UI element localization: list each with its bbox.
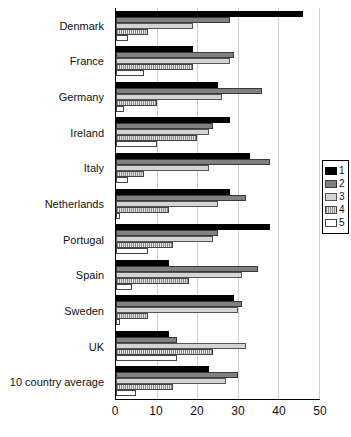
bar-row	[116, 284, 319, 290]
bar-group	[116, 8, 319, 44]
legend-item: 3	[325, 191, 346, 203]
bar-group	[116, 292, 319, 328]
bar-row	[116, 35, 319, 41]
category-axis: DenmarkFranceGermanyIrelandItalyNetherla…	[0, 8, 110, 400]
category-label: Netherlands	[0, 186, 110, 222]
legend-swatch-icon	[325, 180, 337, 188]
plot-area	[115, 8, 320, 400]
legend-swatch-icon	[325, 206, 337, 214]
gridline	[319, 8, 320, 399]
category-label: France	[0, 44, 110, 80]
legend-label: 2	[339, 179, 345, 189]
category-label: Ireland	[0, 115, 110, 151]
category-label: UK	[0, 329, 110, 365]
bar-group	[116, 79, 319, 115]
legend-swatch-icon	[325, 193, 337, 201]
legend-label: 4	[339, 205, 345, 215]
bar-group	[116, 257, 319, 293]
category-label: Germany	[0, 79, 110, 115]
chart-legend: 12345	[322, 160, 349, 234]
bar-groups	[116, 8, 319, 399]
x-axis-tick: 30	[231, 404, 244, 418]
legend-label: 5	[339, 218, 345, 228]
bar-row	[116, 141, 319, 147]
bar-row	[116, 390, 319, 396]
bar-group	[116, 363, 319, 399]
bar-group	[116, 328, 319, 364]
x-axis-tick: 0	[112, 404, 119, 418]
bar-series-5	[116, 35, 128, 41]
bar-series-5	[116, 177, 128, 183]
bar-row	[116, 177, 319, 183]
bar-series-5	[116, 319, 120, 325]
bar-row	[116, 319, 319, 325]
bar-row	[116, 213, 319, 219]
legend-item: 5	[325, 217, 346, 229]
bar-row	[116, 355, 319, 361]
category-label: Denmark	[0, 8, 110, 44]
legend-label: 3	[339, 192, 345, 202]
bar-series-5	[116, 390, 136, 396]
bar-series-5	[116, 70, 144, 76]
x-axis: 01020304050	[115, 400, 320, 424]
bar-series-5	[116, 213, 120, 219]
legend-item: 4	[325, 204, 346, 216]
bar-group	[116, 44, 319, 80]
bar-series-5	[116, 106, 124, 112]
bar-series-5	[116, 141, 157, 147]
x-axis-tick: 40	[272, 404, 285, 418]
legend-item: 1	[325, 165, 346, 177]
bar-series-5	[116, 355, 177, 361]
bar-row	[116, 106, 319, 112]
bar-row	[116, 248, 319, 254]
bar-chart: DenmarkFranceGermanyIrelandItalyNetherla…	[0, 0, 351, 437]
legend-item: 2	[325, 178, 346, 190]
category-label: Italy	[0, 151, 110, 187]
x-axis-tick: 50	[313, 404, 326, 418]
category-label: Spain	[0, 257, 110, 293]
bar-row	[116, 70, 319, 76]
legend-label: 1	[339, 166, 345, 176]
x-axis-tick: 10	[149, 404, 162, 418]
bar-group	[116, 115, 319, 151]
bar-group	[116, 150, 319, 186]
bar-group	[116, 186, 319, 222]
category-label: 10 country average	[0, 364, 110, 400]
category-label: Portugal	[0, 222, 110, 258]
bar-series-5	[116, 248, 148, 254]
legend-swatch-icon	[325, 167, 337, 175]
bar-group	[116, 221, 319, 257]
bar-series-5	[116, 284, 132, 290]
category-label: Sweden	[0, 293, 110, 329]
legend-swatch-icon	[325, 219, 337, 227]
x-axis-tick: 20	[190, 404, 203, 418]
